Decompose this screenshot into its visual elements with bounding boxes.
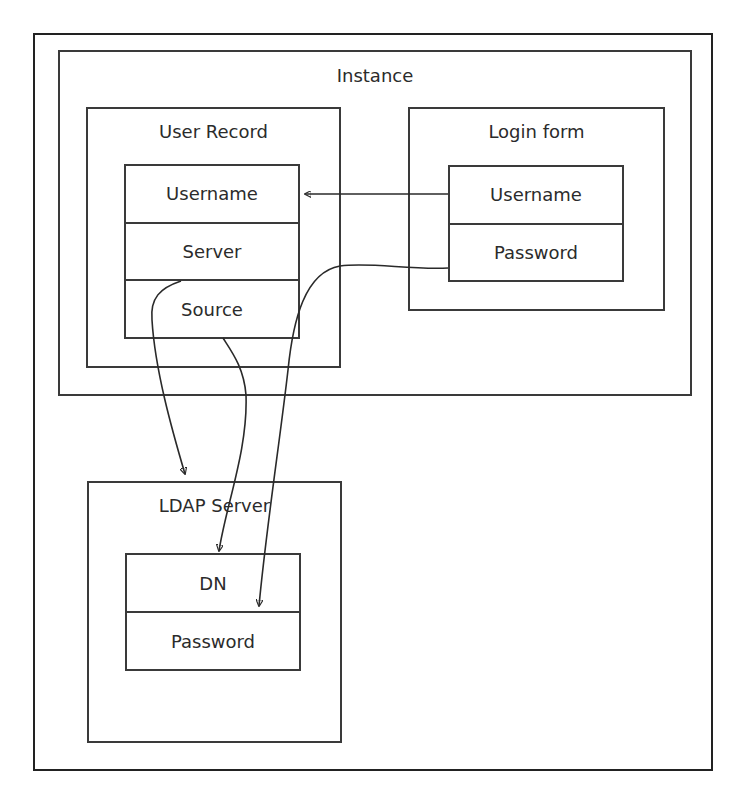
ldap-server-label: LDAP Server bbox=[89, 496, 340, 516]
user-record-source-field: Source bbox=[126, 279, 298, 337]
ldap-server-fields: DN Password bbox=[125, 553, 301, 671]
login-form-password-field: Password bbox=[450, 223, 622, 281]
login-form-label: Login form bbox=[410, 122, 663, 142]
user-record-fields: Username Server Source bbox=[124, 164, 300, 339]
user-record-username-field: Username bbox=[126, 166, 298, 222]
ldap-server-dn-field: DN bbox=[127, 555, 299, 611]
user-record-server-field: Server bbox=[126, 222, 298, 280]
login-form-username-field: Username bbox=[450, 167, 622, 223]
instance-label: Instance bbox=[60, 66, 690, 86]
ldap-server-password-field: Password bbox=[127, 611, 299, 669]
login-form-fields: Username Password bbox=[448, 165, 624, 282]
user-record-label: User Record bbox=[88, 122, 339, 142]
